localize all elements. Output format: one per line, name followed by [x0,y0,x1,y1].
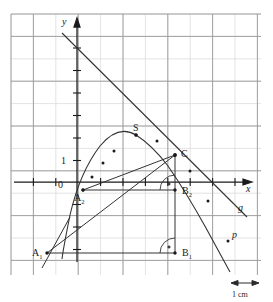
curve-label-p: p [231,229,237,240]
x-axis-label: x [245,183,251,194]
curve-point-marker [91,176,94,179]
point-b2-dot [173,188,176,191]
curve-point-marker [189,170,192,173]
parabola-p [62,131,230,272]
line-g [62,33,247,217]
axes [14,18,252,262]
scale-bar-arrow-right [252,281,259,286]
grid-minor [11,14,261,275]
construction-lines [42,155,175,268]
y-axis-arrow [74,18,80,27]
scale-bar [231,281,259,286]
point-label-c: C [181,148,188,159]
point-b1-dot [173,251,176,254]
y-axis-label: y [61,16,67,27]
point-label-subscript: 2 [81,198,84,205]
right-angle-b2-dot [168,183,170,185]
right-angle-b1-dot [168,246,170,248]
point-label-a1: A1 [32,247,42,260]
curve-label-g: g [238,202,243,213]
point-label-a2: A2 [74,192,84,205]
unit-tick-label: 1 [61,155,66,166]
curve-point-marker [227,240,230,243]
curve-point-marker [113,150,116,153]
grid-major [11,14,261,275]
point-label-subscript: 1 [189,253,192,260]
point-label-subscript: 1 [39,253,42,260]
scale-bar-arrow-left [231,281,238,286]
curve-point-marker [207,200,210,203]
figure-canvas: y x 0 1 SCA1A2B1B2 gp 1 cm [0,0,273,302]
geometry-figure: y x 0 1 SCA1A2B1B2 gp 1 cm [0,0,273,302]
point-label-subscript: 2 [189,191,192,198]
curve-point-markers [82,134,230,243]
curve-point-marker [156,140,159,143]
point-s-dot [134,133,137,136]
point-a2-dot [81,188,84,191]
point-c-dot [173,153,177,157]
named-point-dots [45,133,177,254]
point-a1-dot [45,251,48,254]
scale-bar-label: 1 cm [232,290,249,299]
point-label-s: S [133,122,139,133]
origin-label: 0 [58,179,63,190]
curve-point-marker [102,162,105,165]
